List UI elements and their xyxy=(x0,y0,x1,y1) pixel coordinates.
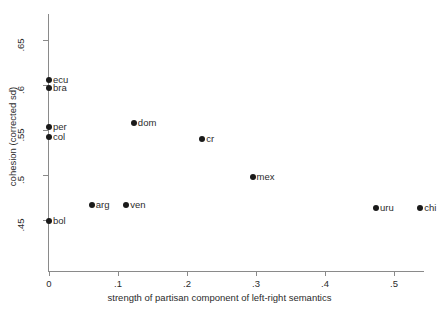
x-tick-label: .4 xyxy=(305,278,345,289)
x-tick-label: .5 xyxy=(374,278,414,289)
data-point-marker[interactable] xyxy=(89,202,95,208)
data-point-label: col xyxy=(53,131,65,142)
data-point-marker[interactable] xyxy=(131,120,137,126)
x-tick-mark xyxy=(49,271,50,276)
data-point-label: bra xyxy=(53,82,67,93)
y-tick-mark xyxy=(43,130,49,131)
y-tick-label: .45 xyxy=(0,214,42,226)
data-point-marker[interactable] xyxy=(199,136,205,142)
data-point-label: uru xyxy=(380,202,394,213)
data-point-label: dom xyxy=(138,117,156,128)
data-point-label: bol xyxy=(53,215,66,226)
x-tick-label: .2 xyxy=(167,278,207,289)
data-point-label: cr xyxy=(206,133,214,144)
data-point-label: mex xyxy=(257,171,275,182)
data-point-label: arg xyxy=(96,199,110,210)
data-point-marker[interactable] xyxy=(417,205,423,211)
x-tick-label: 0 xyxy=(29,278,69,289)
data-point-marker[interactable] xyxy=(373,205,379,211)
y-tick-label: .65 xyxy=(0,34,42,46)
x-tick-mark xyxy=(187,271,188,276)
x-axis-title: strength of partisan component of left-r… xyxy=(0,292,439,303)
y-axis-line xyxy=(48,14,49,272)
x-tick-label: .3 xyxy=(236,278,276,289)
x-tick-mark xyxy=(118,271,119,276)
y-tick-mark xyxy=(43,175,49,176)
x-tick-mark xyxy=(256,271,257,276)
data-point-marker[interactable] xyxy=(46,77,52,83)
data-point-marker[interactable] xyxy=(46,124,52,130)
x-tick-mark xyxy=(394,271,395,276)
scatter-plot-figure: .45.5.55.6.65 0.1.2.3.4.5 ecubrapercolbo… xyxy=(0,0,439,312)
data-point-marker[interactable] xyxy=(46,85,52,91)
x-tick-mark xyxy=(325,271,326,276)
data-point-marker[interactable] xyxy=(123,202,129,208)
data-point-label: ven xyxy=(130,199,145,210)
x-tick-label: .1 xyxy=(98,278,138,289)
data-point-marker[interactable] xyxy=(46,218,52,224)
data-point-label: chi xyxy=(424,202,436,213)
x-axis-line xyxy=(48,271,424,272)
y-tick-mark xyxy=(43,40,49,41)
plot-area: .45.5.55.6.65 0.1.2.3.4.5 ecubrapercolbo… xyxy=(0,0,439,312)
data-point-marker[interactable] xyxy=(46,134,52,140)
data-point-marker[interactable] xyxy=(250,174,256,180)
y-axis-title: cohesion (corrected sd) xyxy=(7,62,18,212)
